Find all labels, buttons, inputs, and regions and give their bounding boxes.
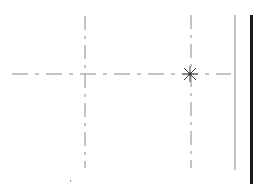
border-line: [250, 15, 253, 184]
cad-canvas: [0, 0, 253, 184]
speck: [70, 180, 71, 182]
asterisk-marker-icon[interactable]: [182, 66, 198, 82]
drawing-svg: [0, 0, 253, 184]
